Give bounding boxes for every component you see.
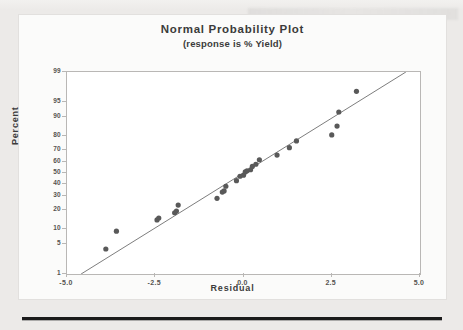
x-tick-mark xyxy=(419,273,420,277)
data-point xyxy=(156,215,161,220)
data-point xyxy=(176,202,181,207)
title-block: Normal Probability Plot (response is % Y… xyxy=(19,23,446,49)
y-tick-label: 80 xyxy=(39,131,61,138)
y-axis-label: Percent xyxy=(10,106,20,145)
x-tick-mark xyxy=(243,273,244,277)
y-tick-label: 5 xyxy=(39,239,61,246)
data-point xyxy=(294,138,299,143)
y-tick-label: 50 xyxy=(39,168,61,175)
x-tick-mark xyxy=(154,273,155,277)
data-point xyxy=(214,196,219,201)
y-tick-mark xyxy=(62,243,66,244)
data-point xyxy=(329,132,334,137)
y-tick-label: 95 xyxy=(39,97,61,104)
y-tick-label: 40 xyxy=(39,179,61,186)
y-tick-mark xyxy=(62,135,66,136)
y-tick-label: 1 xyxy=(39,269,61,276)
y-tick-mark xyxy=(62,209,66,210)
y-tick-label: 20 xyxy=(39,205,61,212)
data-point xyxy=(336,109,341,114)
y-tick-mark xyxy=(62,228,66,229)
y-tick-mark xyxy=(62,149,66,150)
x-tick-mark xyxy=(66,273,67,277)
data-point xyxy=(234,178,239,183)
y-tick-mark xyxy=(62,71,66,72)
figure-panel: Normal Probability Plot (response is % Y… xyxy=(18,14,447,300)
data-point xyxy=(174,209,179,214)
data-point xyxy=(103,246,108,251)
y-tick-mark xyxy=(62,116,66,117)
y-tick-mark xyxy=(62,161,66,162)
data-point xyxy=(274,152,279,157)
y-tick-label: 99 xyxy=(39,67,61,74)
data-point xyxy=(354,89,359,94)
data-points-group xyxy=(103,89,359,252)
data-point xyxy=(257,157,262,162)
y-tick-mark xyxy=(62,183,66,184)
y-tick-label: 90 xyxy=(39,112,61,119)
y-tick-mark xyxy=(62,172,66,173)
y-tick-label: 70 xyxy=(39,145,61,152)
data-point xyxy=(334,123,339,128)
data-point xyxy=(253,162,258,167)
data-point xyxy=(287,145,292,150)
chart-subtitle: (response is % Yield) xyxy=(19,38,446,49)
chart-title: Normal Probability Plot xyxy=(19,23,446,35)
data-point xyxy=(114,229,119,234)
x-axis-label: Residual xyxy=(19,283,446,293)
y-tick-mark xyxy=(62,195,66,196)
y-tick-label: 10 xyxy=(39,224,61,231)
y-tick-label: 30 xyxy=(39,191,61,198)
data-point xyxy=(221,188,226,193)
horizontal-rule-shadow xyxy=(22,320,442,321)
scatter-plot-svg xyxy=(67,72,420,274)
plot-area xyxy=(66,71,421,275)
y-tick-mark xyxy=(62,101,66,102)
y-tick-label: 60 xyxy=(39,157,61,164)
x-tick-mark xyxy=(331,273,332,277)
scanned-page: Normal Probability Plot (response is % Y… xyxy=(0,0,463,330)
data-point xyxy=(223,184,228,189)
